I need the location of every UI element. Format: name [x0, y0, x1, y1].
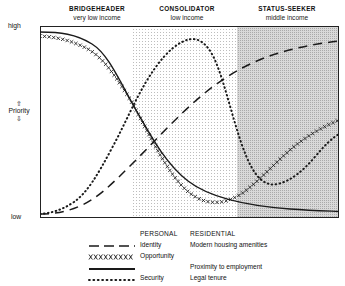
zone-subtitle: low income — [147, 14, 227, 21]
legend-label-proximity-to-employment: Proximity to employment — [190, 263, 262, 270]
legend-label-legal-tenure: Legal tenure — [190, 274, 227, 281]
chart-figure: BRIDGEHEADER very low income CONSOLIDATO… — [0, 0, 345, 286]
legend-label-security: Security — [140, 274, 164, 281]
zone-header-consolidator: CONSOLIDATOR low income — [147, 6, 227, 21]
plot-area — [40, 26, 339, 218]
y-axis-high-label: high — [8, 22, 21, 29]
legend-swatch-security — [88, 276, 136, 284]
zone-title: CONSOLIDATOR — [147, 6, 227, 13]
band-bridgeheader — [40, 26, 133, 218]
zone-title: BRIDGEHEADER — [54, 6, 140, 13]
y-axis-title: Priority — [0, 107, 38, 115]
arrow-down-icon: ⇩ — [0, 115, 38, 122]
zone-subtitle: very low income — [54, 14, 140, 21]
legend-header-residential: RESIDENTIAL — [190, 230, 235, 237]
zone-subtitle: middle income — [243, 14, 331, 21]
legend-swatch-proximity — [88, 265, 136, 273]
zone-header-bridgeheader: BRIDGEHEADER very low income — [54, 6, 140, 21]
legend-label-modern-housing-amenities: Modern housing amenities — [190, 241, 267, 248]
legend-header-personal: PERSONAL — [140, 230, 178, 237]
legend-swatch-identity — [88, 242, 136, 250]
zone-header-status-seeker: STATUS-SEEKER middle income — [243, 6, 331, 21]
plot-svg — [40, 26, 339, 218]
legend-label-identity: Identity — [140, 241, 161, 248]
zone-title: STATUS-SEEKER — [243, 6, 331, 13]
y-axis-title-group: ⇧ Priority ⇩ — [0, 100, 38, 122]
chart-legend: PERSONAL RESIDENTIAL Identity Modern hou… — [0, 228, 345, 286]
arrow-up-icon: ⇧ — [0, 100, 38, 107]
band-status-seeker — [237, 26, 339, 218]
legend-swatch-opportunity — [88, 253, 136, 261]
y-axis-low-label: low — [11, 213, 21, 220]
legend-label-opportunity: Opportunity — [140, 252, 174, 259]
